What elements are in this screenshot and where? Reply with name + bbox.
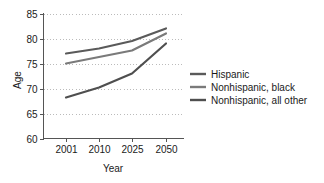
- x-tick-label: 2001: [55, 144, 78, 155]
- series-line-1: [66, 34, 166, 64]
- legend-label-2: Nonhispanic, all other: [211, 95, 308, 106]
- y-axis-title: Age: [12, 71, 23, 89]
- x-tick-labels: 2001201020252050: [55, 144, 178, 155]
- y-tick-label: 60: [26, 134, 38, 145]
- y-tick-label: 85: [26, 9, 38, 20]
- x-tick-label: 2050: [155, 144, 178, 155]
- x-axis: [44, 139, 185, 143]
- y-tick-labels: 606570758085: [26, 9, 38, 145]
- legend-label-1: Nonhispanic, black: [211, 82, 296, 93]
- x-tick-label: 2010: [88, 144, 111, 155]
- y-tick-label: 80: [26, 34, 38, 45]
- y-tick-label: 75: [26, 59, 38, 70]
- line-chart: 606570758085 2001201020252050 Age Year H…: [0, 0, 324, 183]
- legend-label-0: Hispanic: [211, 69, 249, 80]
- y-tick-label: 70: [26, 84, 38, 95]
- y-tick-label: 65: [26, 109, 38, 120]
- x-tick-label: 2025: [121, 144, 144, 155]
- y-axis: [40, 13, 44, 140]
- chart-legend: HispanicNonhispanic, blackNonhispanic, a…: [190, 69, 308, 106]
- chart-figure: 606570758085 2001201020252050 Age Year H…: [0, 0, 324, 183]
- x-axis-title: Year: [103, 163, 124, 174]
- series-lines: [66, 29, 166, 98]
